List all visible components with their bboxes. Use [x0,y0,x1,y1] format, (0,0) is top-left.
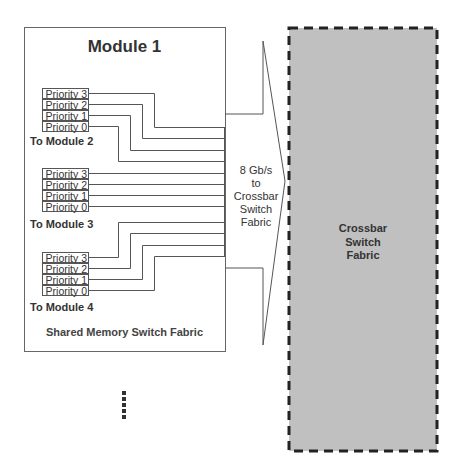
crossbar-label-line: Fabric [288,249,438,263]
ellipsis-dot [122,409,126,413]
ellipsis-dot [122,415,126,419]
priority-queue-3: Priority 3 [42,168,89,179]
link-label-line: Switch [228,203,284,216]
priority-queue-3: Priority 3 [42,252,89,263]
link-label-line: 8 Gb/s [228,164,284,177]
priority-queue-1: Priority 1 [42,274,89,285]
priority-queue-2: Priority 2 [42,179,89,190]
ellipsis-dot [122,397,126,401]
link-label-line: to [228,177,284,190]
module-title: Module 1 [24,37,225,57]
link-label-line: Fabric [228,216,284,229]
crossbar-label-line: Switch [288,236,438,250]
priority-queue-3: Priority 3 [42,88,89,99]
destination-label: To Module 3 [30,218,93,230]
priority-queue-0: Priority 0 [42,285,89,296]
link-label-line: Crossbar [228,190,284,203]
destination-label: To Module 2 [30,135,93,147]
destination-label: To Module 4 [30,301,93,313]
priority-queue-0: Priority 0 [42,121,89,132]
crossbar-label: Crossbar Switch Fabric [288,222,438,263]
priority-queue-2: Priority 2 [42,263,89,274]
crossbar-label-line: Crossbar [288,222,438,236]
ellipsis-dot [122,391,126,395]
priority-queue-1: Priority 1 [42,110,89,121]
ellipsis-dot [122,403,126,407]
priority-queue-2: Priority 2 [42,99,89,110]
priority-queue-0: Priority 0 [42,201,89,212]
module-footer-label: Shared Memory Switch Fabric [24,326,225,338]
link-rate-label: 8 Gb/s to Crossbar Switch Fabric [228,164,284,229]
priority-queue-1: Priority 1 [42,190,89,201]
